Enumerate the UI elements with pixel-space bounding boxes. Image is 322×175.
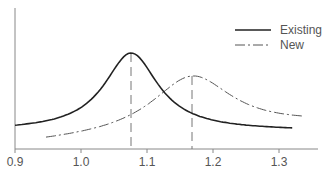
x-tick-label: 1.1 [139, 155, 156, 169]
x-tick-label: 1.0 [73, 155, 90, 169]
legend-label-existing: Existing [280, 23, 322, 37]
series-existing-line [15, 53, 292, 128]
x-tick-label: 1.3 [271, 155, 288, 169]
x-tick-label: 0.9 [7, 155, 24, 169]
x-tick-label: 1.2 [205, 155, 222, 169]
line-chart: 0.9 1.0 1.1 1.2 1.3 Existing New [0, 0, 322, 175]
series-new-line [46, 76, 302, 137]
x-ticks [15, 149, 279, 153]
x-tick-labels: 0.9 1.0 1.1 1.2 1.3 [7, 155, 288, 169]
legend-label-new: New [280, 38, 304, 52]
legend: Existing New [235, 23, 322, 52]
